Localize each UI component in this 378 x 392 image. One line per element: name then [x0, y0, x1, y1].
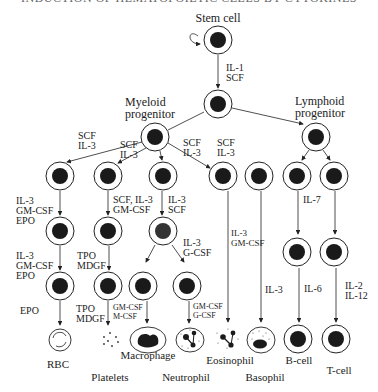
- cytokine-mdgf: MDGF: [76, 313, 105, 324]
- cytokine-il3: IL-3: [231, 228, 247, 238]
- t-cell-precursor-1: [320, 162, 348, 190]
- megakaryocyte-precursor-1: [94, 162, 122, 190]
- platelets-label: Platelets: [91, 371, 128, 383]
- lymphoid-progenitor-cell: [302, 123, 330, 151]
- cytokine-il6: IL-6: [304, 283, 322, 294]
- myeloid-label-2: progenitor: [125, 107, 175, 121]
- megakaryocyte-precursor-2: [94, 217, 122, 245]
- rbc-label: RBC: [47, 358, 69, 370]
- b-cell-precursor-2: [283, 238, 311, 266]
- erythroid-precursor-2: [46, 217, 74, 245]
- hematopoiesis-diagram: Stem cell IL-1 SCF Myeloid progenitor Ly…: [0, 0, 378, 392]
- cytokine-mdgf: MDGF: [77, 260, 106, 271]
- cytokine-il3: IL-3: [78, 140, 96, 151]
- basophil-label: Basophil: [245, 371, 284, 383]
- t-cell-label: T-cell: [326, 364, 351, 376]
- lymphoid-label-2: progenitor: [295, 106, 345, 120]
- granulocyte-monocyte-precursor-2: [149, 217, 177, 245]
- cytokine-gmcsf: GM-CSF: [113, 303, 143, 312]
- erythroid-precursor-3: [46, 272, 74, 300]
- cytokine-gcsf: G-CSF: [193, 311, 216, 320]
- myeloid-progenitor-cell: [141, 123, 169, 151]
- cytokine-epo: EPO: [20, 305, 39, 316]
- eosinophil-precursor: [209, 162, 237, 190]
- b-cell-precursor-1: [283, 162, 311, 190]
- multipotent-progenitor-cell: [204, 90, 232, 118]
- cytokine-il3: IL-3: [265, 284, 283, 295]
- b-cell-label: B-cell: [286, 354, 313, 366]
- granulocyte-monocyte-precursor-1: [149, 162, 177, 190]
- cytokine-scf: SCF: [168, 204, 186, 215]
- stem-cell: [204, 26, 232, 54]
- cytokine-il3: IL-3: [183, 147, 201, 158]
- neutrophil-precursor: [173, 272, 201, 300]
- eosinophil-cell: [216, 328, 238, 348]
- self-renewal-arrow-icon: [190, 34, 200, 44]
- cytokine-gmcsf: GM-CSF: [113, 204, 151, 215]
- cytokine-gmcsf: GM-CSF: [193, 302, 223, 311]
- cytokine-gmcsf: GM-CSF: [231, 238, 265, 248]
- megakaryocyte-precursor-3: [94, 272, 122, 300]
- rbc-cell: [49, 329, 71, 351]
- cytokine-il3: IL-3: [120, 149, 138, 160]
- neutrophil-label: Neutrophil: [162, 371, 210, 383]
- basophil-cell: [247, 327, 275, 353]
- cytokine-gcsf: G-CSF: [183, 247, 212, 258]
- cytokine-mcsf: M-CSF: [113, 312, 138, 321]
- b-cell: [284, 325, 312, 353]
- cytokine-il3: IL-3: [217, 147, 235, 158]
- t-cell-precursor-2: [320, 238, 348, 266]
- cytokine-epo: EPO: [16, 215, 35, 226]
- stem-cell-label: Stem cell: [196, 11, 242, 25]
- monocyte-precursor: [129, 272, 157, 300]
- erythroid-precursor-1: [46, 162, 74, 190]
- cytokine-epo: EPO: [16, 270, 35, 281]
- macrophage-label: Macrophage: [121, 349, 176, 361]
- neutrophil-cell: [176, 328, 204, 352]
- cytokine-il7: IL-7: [303, 194, 321, 205]
- eosinophil-label: Eosinophil: [206, 354, 254, 366]
- t-cell: [322, 325, 350, 353]
- cytokine-il12: IL-12: [345, 290, 368, 301]
- basophil-precursor: [245, 162, 273, 190]
- cytokine-scf: SCF: [226, 72, 244, 83]
- platelets: [103, 332, 119, 347]
